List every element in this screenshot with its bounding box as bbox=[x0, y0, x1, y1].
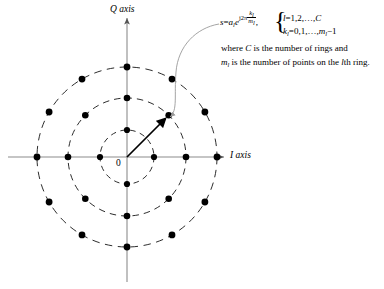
constellation-point bbox=[97, 154, 103, 160]
signal-vector-arrow bbox=[127, 119, 166, 158]
signal-formula: s=alej2πklml, bbox=[220, 16, 258, 31]
constellation-point bbox=[46, 109, 53, 116]
exponent-denominator: ml bbox=[247, 18, 256, 25]
constellation-point bbox=[124, 181, 130, 187]
exponent-fraction: klml bbox=[247, 10, 256, 25]
constellation-point bbox=[124, 64, 131, 71]
constellation-point bbox=[169, 232, 176, 239]
note-line-1: where C is the number of rings and bbox=[221, 44, 348, 54]
constellation-point bbox=[165, 112, 172, 119]
axis-lines bbox=[8, 18, 224, 282]
formula-exponent: j2πklml bbox=[239, 14, 256, 21]
condition-k: kl=0,1,…,ml−1 bbox=[283, 27, 337, 37]
constellation-point bbox=[169, 76, 176, 83]
constellation-point bbox=[82, 112, 89, 119]
origin-label: 0 bbox=[116, 158, 121, 168]
i-axis-label: I axis bbox=[230, 150, 251, 160]
constellation-point bbox=[34, 154, 41, 161]
constellation-point bbox=[165, 195, 172, 202]
constellation-point bbox=[124, 213, 131, 220]
constellation-point bbox=[151, 154, 157, 160]
constellation-point bbox=[124, 127, 130, 133]
formula-comma: , bbox=[256, 17, 258, 27]
constellation-point bbox=[202, 109, 209, 116]
constellation-point bbox=[183, 154, 190, 161]
constellation-point bbox=[124, 244, 131, 251]
exponent-prefix: j2π bbox=[239, 14, 247, 21]
formula-leader-line bbox=[170, 24, 219, 117]
condition-l: l=1,2,…,C bbox=[283, 14, 321, 24]
constellation-point bbox=[124, 95, 131, 102]
diagram-canvas: Q axis I axis 0 s=alej2πklml, { l=1,2,…,… bbox=[0, 0, 384, 289]
constellation-point bbox=[214, 154, 221, 161]
constellation-point bbox=[79, 232, 86, 239]
formula-amplitude-sub: l bbox=[233, 21, 235, 28]
constellation-point bbox=[82, 195, 89, 202]
constellation-point bbox=[79, 76, 86, 83]
q-axis-label: Q axis bbox=[110, 4, 135, 14]
constellation-point bbox=[65, 154, 72, 161]
note-line-2: ml is the number of points on the lth ri… bbox=[221, 58, 370, 68]
constellation-point bbox=[202, 199, 209, 206]
constellation-point bbox=[46, 199, 53, 206]
